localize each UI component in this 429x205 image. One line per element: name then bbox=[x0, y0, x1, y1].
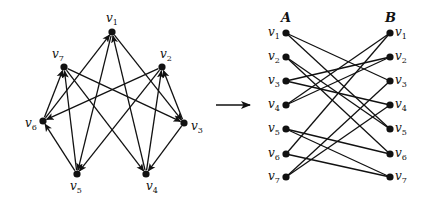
node-b-v1 bbox=[386, 29, 393, 36]
directed-edge-v7-v4 bbox=[66, 70, 143, 171]
node-label-a-v3: v3 bbox=[268, 73, 280, 89]
node-v5 bbox=[73, 170, 80, 177]
node-a-v5 bbox=[282, 125, 289, 132]
node-label-v6: v6 bbox=[25, 116, 37, 132]
node-b-v4 bbox=[386, 101, 393, 108]
node-label-b-v2: v2 bbox=[395, 49, 407, 65]
node-a-v6 bbox=[282, 150, 289, 157]
node-a-v7 bbox=[282, 173, 289, 180]
node-b-v5 bbox=[386, 125, 393, 132]
node-b-v7 bbox=[386, 173, 393, 180]
node-label-a-v2: v2 bbox=[268, 49, 280, 65]
part-a-label: A bbox=[279, 10, 291, 25]
directed-graph: v1v2v3v4v5v6v7 bbox=[25, 11, 203, 195]
node-label-b-v6: v6 bbox=[395, 146, 407, 162]
node-label-a-v6: v6 bbox=[268, 146, 280, 162]
node-a-v2 bbox=[282, 53, 289, 60]
node-label-a-v5: v5 bbox=[268, 121, 280, 137]
node-a-v1 bbox=[282, 29, 289, 36]
bipartite-edges bbox=[286, 33, 390, 177]
node-label-v3: v3 bbox=[191, 119, 203, 135]
directed-edge-v7-v3 bbox=[68, 69, 181, 122]
part-b-label: B bbox=[384, 10, 396, 25]
bipartite-edge-a7-b3 bbox=[286, 81, 390, 177]
directed-edge-v3-v4 bbox=[148, 126, 181, 171]
node-label-a-v7: v7 bbox=[268, 169, 280, 185]
bipartite-graph: A B v1v1v2v2v3v3v4v4v5v5v6v6v7v7 bbox=[268, 10, 407, 185]
node-label-v5: v5 bbox=[70, 179, 82, 195]
node-v1 bbox=[108, 28, 115, 35]
directed-edge-v1-v3 bbox=[114, 35, 181, 120]
diagram-canvas: v1v2v3v4v5v6v7 A B v1v1v2v2v3v3v4v4v5v5v… bbox=[0, 0, 429, 205]
node-label-b-v3: v3 bbox=[395, 73, 407, 89]
node-a-v3 bbox=[282, 77, 289, 84]
directed-edge-v5-v6 bbox=[45, 124, 75, 170]
node-v6 bbox=[39, 117, 46, 124]
node-b-v6 bbox=[386, 150, 393, 157]
node-label-v1: v1 bbox=[106, 11, 118, 27]
node-label-a-v4: v4 bbox=[268, 97, 280, 113]
node-v2 bbox=[158, 63, 165, 70]
node-label-b-v5: v5 bbox=[395, 121, 407, 137]
bipartite-edge-a1-b3 bbox=[286, 33, 390, 81]
node-label-v4: v4 bbox=[146, 179, 158, 195]
node-v7 bbox=[60, 63, 67, 70]
directed-edge-v2-v5 bbox=[79, 70, 159, 171]
bipartite-edge-a2-b6 bbox=[286, 57, 390, 154]
bipartite-edge-a4-b2 bbox=[286, 57, 390, 105]
directed-edge-v3-v2 bbox=[163, 71, 182, 120]
node-a-v4 bbox=[282, 101, 289, 108]
bipartite-edge-a7-b4 bbox=[286, 105, 390, 177]
node-b-v3 bbox=[386, 77, 393, 84]
node-label-b-v7: v7 bbox=[395, 169, 407, 185]
node-label-b-v4: v4 bbox=[395, 97, 407, 113]
directed-edge-v6-v7 bbox=[44, 71, 62, 118]
node-label-v7: v7 bbox=[52, 47, 64, 63]
node-label-v2: v2 bbox=[160, 47, 172, 63]
node-label-a-v1: v1 bbox=[268, 25, 280, 41]
node-b-v2 bbox=[386, 53, 393, 60]
node-v4 bbox=[142, 170, 149, 177]
node-label-b-v1: v1 bbox=[395, 25, 407, 41]
node-v3 bbox=[180, 119, 187, 126]
